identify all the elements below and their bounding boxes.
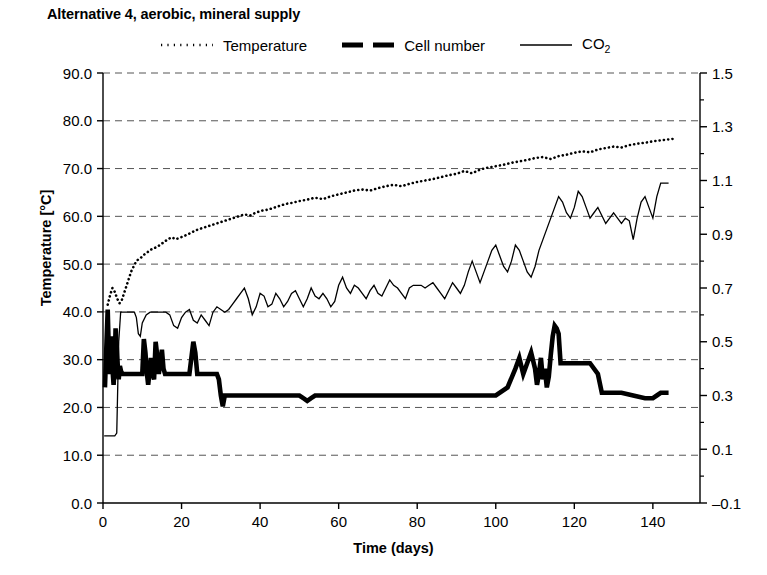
series-line-co2 (104, 183, 668, 436)
chart-figure: Alternative 4, aerobic, mineral supply T… (0, 0, 767, 575)
x-tick-label: 0 (99, 513, 107, 530)
x-tick-label: 140 (640, 513, 665, 530)
x-tick-label: 20 (173, 513, 190, 530)
x-tick-label: 60 (330, 513, 347, 530)
y-tick-label-left: 0.0 (71, 495, 92, 512)
y-tick-label-right: 1.3 (712, 118, 733, 135)
y-tick-label-left: 80.0 (63, 112, 92, 129)
y-tick-label-left: 30.0 (63, 351, 92, 368)
y-tick-label-left: 60.0 (63, 208, 92, 225)
x-tick-label: 120 (562, 513, 587, 530)
y-tick-label-left: 20.0 (63, 399, 92, 416)
y-tick-label-right: –0.1 (712, 495, 741, 512)
chart-plot-area: 0.010.020.030.040.050.060.070.080.090.0–… (0, 0, 767, 575)
x-tick-label: 80 (409, 513, 426, 530)
x-tick-label: 40 (252, 513, 269, 530)
y-tick-label-left: 90.0 (63, 65, 92, 82)
y-tick-label-right: 1.1 (712, 172, 733, 189)
y-tick-label-left: 10.0 (63, 447, 92, 464)
y-tick-label-right: 0.1 (712, 441, 733, 458)
y-tick-label-right: 1.5 (712, 65, 733, 82)
y-tick-label-right: 0.9 (712, 226, 733, 243)
y-tick-label-right: 0.5 (712, 333, 733, 350)
x-tick-label: 100 (483, 513, 508, 530)
y-tick-label-right: 0.7 (712, 280, 733, 297)
y-tick-label-left: 40.0 (63, 303, 92, 320)
y-tick-label-left: 50.0 (63, 256, 92, 273)
series-line-cell-number (105, 310, 669, 407)
y-tick-label-right: 0.3 (712, 387, 733, 404)
y-tick-label-left: 70.0 (63, 160, 92, 177)
series-line-temperature (108, 138, 677, 304)
